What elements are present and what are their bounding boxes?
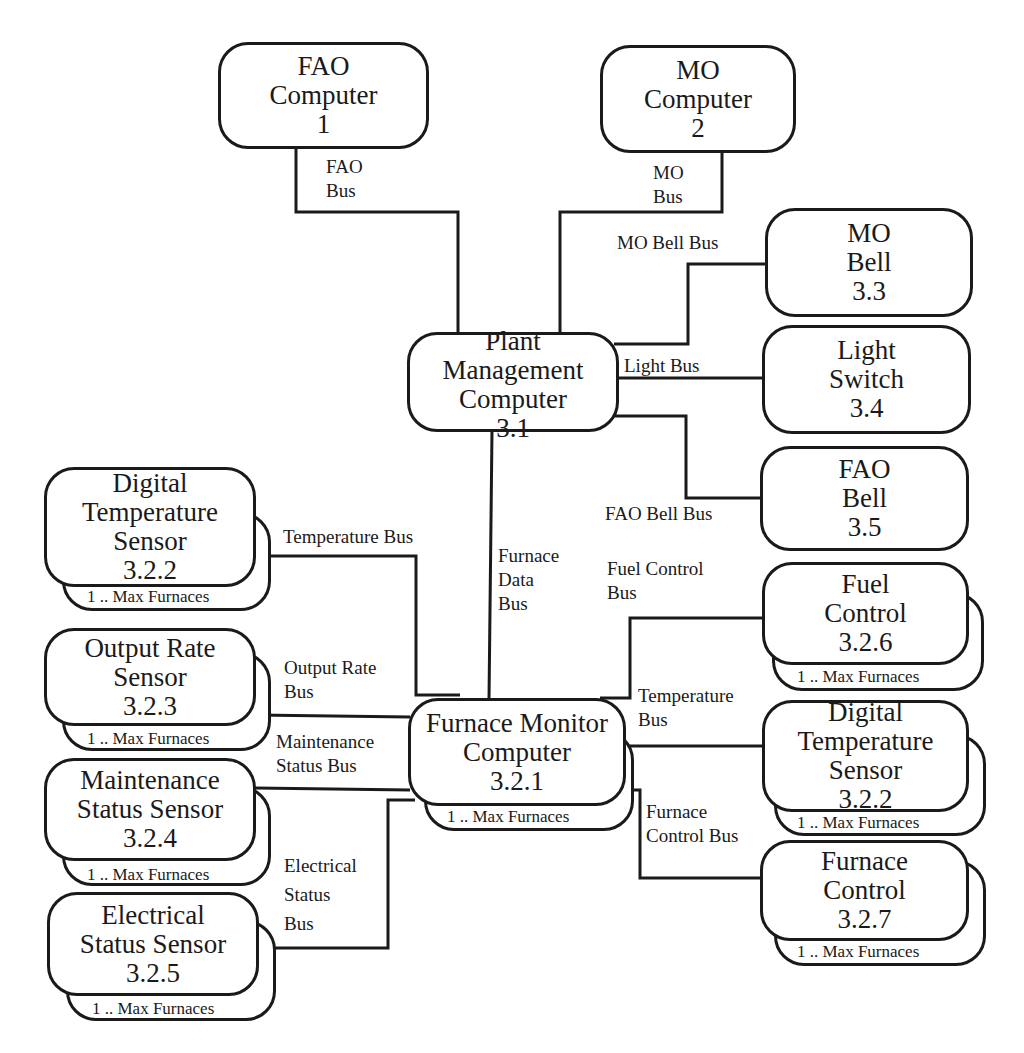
bus-label-line: Bus bbox=[284, 680, 376, 704]
node-label: Temperature bbox=[82, 498, 218, 527]
bus-label-line: Maintenance bbox=[276, 730, 374, 754]
node-plant-management-computer[interactable]: Plant Management Computer 3.1 bbox=[407, 332, 619, 432]
node-furnace-control[interactable]: Furnace Control 3.2.7 bbox=[760, 840, 969, 941]
node-furnace-monitor-computer[interactable]: Furnace Monitor Computer 3.2.1 bbox=[408, 698, 626, 806]
multiplicity-label: 1 .. Max Furnaces bbox=[797, 814, 919, 832]
wire-maintenance-bus bbox=[255, 788, 410, 790]
wire-fao-bell-bus bbox=[614, 416, 760, 498]
node-id: 3.2.2 bbox=[123, 556, 177, 585]
node-id: 3.2.3 bbox=[123, 692, 177, 721]
bus-label-line: Fuel Control bbox=[607, 557, 704, 581]
node-label: Switch bbox=[829, 365, 904, 394]
node-label: MO bbox=[847, 219, 891, 248]
bus-label-fao-bell: FAO Bell Bus bbox=[605, 502, 712, 526]
bus-label-line: Bus bbox=[653, 185, 684, 209]
node-label: Status Sensor bbox=[77, 795, 223, 824]
wire-furnace-data-bus bbox=[489, 430, 492, 700]
node-id: 2 bbox=[691, 114, 705, 143]
bus-label-line: Furnace bbox=[498, 544, 559, 568]
bus-label-electrical: Electrical Status Bus bbox=[284, 851, 357, 938]
multiplicity-label: 1 .. Max Furnaces bbox=[797, 943, 919, 961]
bus-label-output-rate: Output Rate Bus bbox=[284, 656, 376, 704]
node-fao-bell[interactable]: FAO Bell 3.5 bbox=[760, 446, 969, 551]
bus-label-furnace-control: Furnace Control Bus bbox=[646, 800, 738, 848]
bus-label-line: Bus bbox=[284, 909, 357, 938]
bus-label-line: Light Bus bbox=[624, 354, 699, 378]
bus-label-temperature-left: Temperature Bus bbox=[283, 525, 413, 549]
bus-label-line: Bus bbox=[607, 581, 704, 605]
bus-label-line: Status Bus bbox=[276, 754, 374, 778]
node-light-switch[interactable]: Light Switch 3.4 bbox=[762, 325, 971, 434]
bus-label-fao: FAO Bus bbox=[326, 155, 363, 203]
node-fao-computer[interactable]: FAO Computer 1 bbox=[218, 42, 429, 149]
bus-label-line: Output Rate bbox=[284, 656, 376, 680]
node-label: Computer bbox=[459, 385, 567, 414]
node-label: Control bbox=[824, 599, 907, 628]
bus-label-line: Control Bus bbox=[646, 824, 738, 848]
node-label: Bell bbox=[847, 248, 892, 277]
node-label: Plant bbox=[485, 327, 541, 356]
wire-output-rate-bus bbox=[255, 715, 410, 717]
node-id: 3.2.2 bbox=[839, 785, 893, 814]
node-label: Bell bbox=[842, 484, 887, 513]
node-mo-computer[interactable]: MO Computer 2 bbox=[600, 45, 796, 153]
node-label: Digital bbox=[113, 469, 188, 498]
bus-label-line: Bus bbox=[498, 592, 559, 616]
node-fuel-control[interactable]: Fuel Control 3.2.6 bbox=[762, 562, 969, 665]
node-label: Digital bbox=[828, 698, 903, 727]
node-label: Status Sensor bbox=[80, 930, 226, 959]
node-label: FAO bbox=[838, 455, 890, 484]
node-label: Sensor bbox=[113, 663, 187, 692]
node-label: Furnace Monitor bbox=[426, 709, 608, 738]
bus-label-mo: MO Bus bbox=[653, 161, 684, 209]
bus-label-line: Bus bbox=[326, 179, 363, 203]
node-id: 1 bbox=[317, 110, 331, 139]
wire-mo-bell-bus bbox=[614, 264, 765, 344]
node-label: Control bbox=[823, 876, 906, 905]
node-output-rate-sensor[interactable]: Output Rate Sensor 3.2.3 bbox=[44, 628, 256, 726]
bus-label-line: Temperature bbox=[638, 684, 734, 708]
node-label: Maintenance bbox=[80, 766, 219, 795]
multiplicity-label: 1 .. Max Furnaces bbox=[87, 730, 209, 748]
node-id: 3.2.7 bbox=[838, 905, 892, 934]
node-label: Output Rate bbox=[84, 634, 215, 663]
node-digital-temperature-sensor-right[interactable]: Digital Temperature Sensor 3.2.2 bbox=[762, 700, 969, 812]
bus-label-temperature-right: Temperature Bus bbox=[638, 684, 734, 732]
node-id: 3.2.4 bbox=[123, 824, 177, 853]
node-id: 3.3 bbox=[852, 277, 886, 306]
bus-label-line: Temperature Bus bbox=[283, 525, 413, 549]
node-id: 3.4 bbox=[850, 394, 884, 423]
bus-label-line: Electrical bbox=[284, 851, 357, 880]
bus-label-line: MO Bell Bus bbox=[617, 231, 718, 255]
bus-label-line: FAO Bell Bus bbox=[605, 502, 712, 526]
multiplicity-label: 1 .. Max Furnaces bbox=[87, 588, 209, 606]
bus-label-line: Furnace bbox=[646, 800, 738, 824]
multiplicity-label: 1 .. Max Furnaces bbox=[92, 1000, 214, 1018]
node-label: Electrical bbox=[101, 901, 204, 930]
node-label: Sensor bbox=[113, 527, 187, 556]
node-id: 3.1 bbox=[496, 414, 530, 443]
bus-label-maintenance: Maintenance Status Bus bbox=[276, 730, 374, 778]
node-label: MO bbox=[676, 56, 720, 85]
bus-label-line: Data bbox=[498, 568, 559, 592]
bus-label-fuel-control: Fuel Control Bus bbox=[607, 557, 704, 605]
bus-label-line: MO bbox=[653, 161, 684, 185]
multiplicity-label: 1 .. Max Furnaces bbox=[447, 808, 569, 826]
node-id: 3.2.1 bbox=[490, 767, 544, 796]
node-mo-bell[interactable]: MO Bell 3.3 bbox=[765, 208, 973, 317]
bus-label-light: Light Bus bbox=[624, 354, 699, 378]
node-digital-temperature-sensor-left[interactable]: Digital Temperature Sensor 3.2.2 bbox=[44, 467, 256, 587]
node-electrical-status-sensor[interactable]: Electrical Status Sensor 3.2.5 bbox=[47, 892, 259, 996]
bus-label-line: Status bbox=[284, 880, 357, 909]
wire-fao-bus bbox=[296, 148, 458, 332]
bus-label-line: Bus bbox=[638, 708, 734, 732]
node-label: Management bbox=[443, 356, 584, 385]
bus-label-mo-bell: MO Bell Bus bbox=[617, 231, 718, 255]
node-label: Computer bbox=[644, 85, 752, 114]
node-id: 3.5 bbox=[848, 513, 882, 542]
node-label: FAO bbox=[297, 52, 349, 81]
bus-label-furnace-data: Furnace Data Bus bbox=[498, 544, 559, 616]
node-maintenance-status-sensor[interactable]: Maintenance Status Sensor 3.2.4 bbox=[44, 758, 256, 861]
node-label: Light bbox=[837, 336, 896, 365]
node-label: Fuel bbox=[841, 570, 889, 599]
